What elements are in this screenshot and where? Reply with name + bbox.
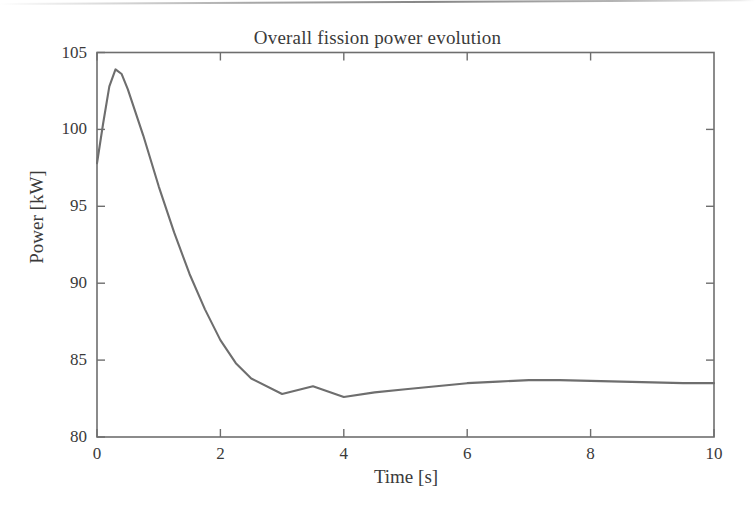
x-tick-label-4: 4 — [340, 444, 349, 464]
x-axis-label: Time [s] — [97, 466, 715, 488]
plot-canvas — [0, 0, 755, 511]
y-tick-label-100: 100 — [47, 119, 87, 139]
x-tick-label-0: 0 — [93, 444, 102, 464]
x-tick-label-8: 8 — [586, 444, 595, 464]
page-background: Overall fission power evolution — [0, 0, 755, 511]
y-tick-label-90: 90 — [47, 273, 87, 293]
y-axis-label: Power [kW] — [26, 137, 48, 297]
y-tick-label-95: 95 — [47, 196, 87, 216]
x-tick-label-6: 6 — [463, 444, 472, 464]
y-tick-label-105: 105 — [47, 43, 87, 63]
x-tick-label-2: 2 — [216, 444, 225, 464]
y-tick-label-80: 80 — [47, 427, 87, 447]
x-tick-marks — [97, 53, 714, 438]
power-evolution-line — [97, 69, 714, 397]
chart-figure: Overall fission power evolution — [0, 0, 755, 511]
y-tick-label-85: 85 — [47, 350, 87, 370]
y-tick-marks — [97, 53, 714, 438]
plot-box-frame — [97, 53, 714, 438]
x-tick-label-10: 10 — [706, 444, 723, 464]
